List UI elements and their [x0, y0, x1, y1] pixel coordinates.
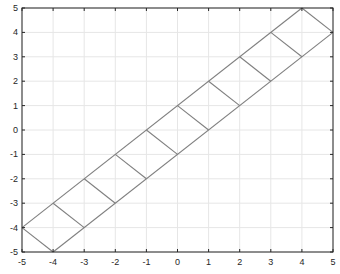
- x-tick-label: -1: [142, 257, 150, 267]
- x-tick-label: -2: [111, 257, 119, 267]
- series-upper-edge: [22, 8, 302, 228]
- x-tick-label: 3: [268, 257, 273, 267]
- x-tick-label: -5: [18, 257, 26, 267]
- series-rung-3: [84, 179, 115, 203]
- series-rung-8: [240, 57, 271, 81]
- x-tick-label: 2: [237, 257, 242, 267]
- x-tick-label: 1: [206, 257, 211, 267]
- y-tick-label: -4: [10, 223, 18, 233]
- y-tick-label: -5: [10, 247, 18, 257]
- series-rung-6: [178, 106, 209, 130]
- x-tick-label: 0: [175, 257, 180, 267]
- series-rung-10: [302, 8, 333, 32]
- y-tick-label: 4: [13, 27, 18, 37]
- y-tick-label: -1: [10, 149, 18, 159]
- x-tick-label: -3: [80, 257, 88, 267]
- chart-figure: -5-4-3-2-1012345 -5-4-3-2-1012345: [0, 0, 340, 274]
- series-rung-5: [146, 130, 177, 154]
- y-tick-label: 1: [13, 101, 18, 111]
- y-tick-label: 2: [13, 76, 18, 86]
- series-rung-7: [209, 81, 240, 105]
- x-tick-label: 5: [330, 257, 335, 267]
- y-tick-label: -2: [10, 174, 18, 184]
- series-rung-1: [22, 228, 53, 252]
- x-tick-label: -4: [49, 257, 57, 267]
- series-rung-9: [271, 32, 302, 56]
- series-rung-2: [53, 203, 84, 227]
- y-tick-label: 5: [13, 3, 18, 13]
- y-tick-label: 3: [13, 52, 18, 62]
- y-tick-label: -3: [10, 198, 18, 208]
- series-rung-4: [115, 154, 146, 178]
- x-tick-label: 4: [299, 257, 304, 267]
- y-tick-label: 0: [13, 125, 18, 135]
- series-lower-edge: [53, 32, 333, 252]
- x-axis-tick-labels: -5-4-3-2-1012345: [18, 257, 336, 267]
- y-axis-tick-labels: -5-4-3-2-1012345: [10, 3, 18, 257]
